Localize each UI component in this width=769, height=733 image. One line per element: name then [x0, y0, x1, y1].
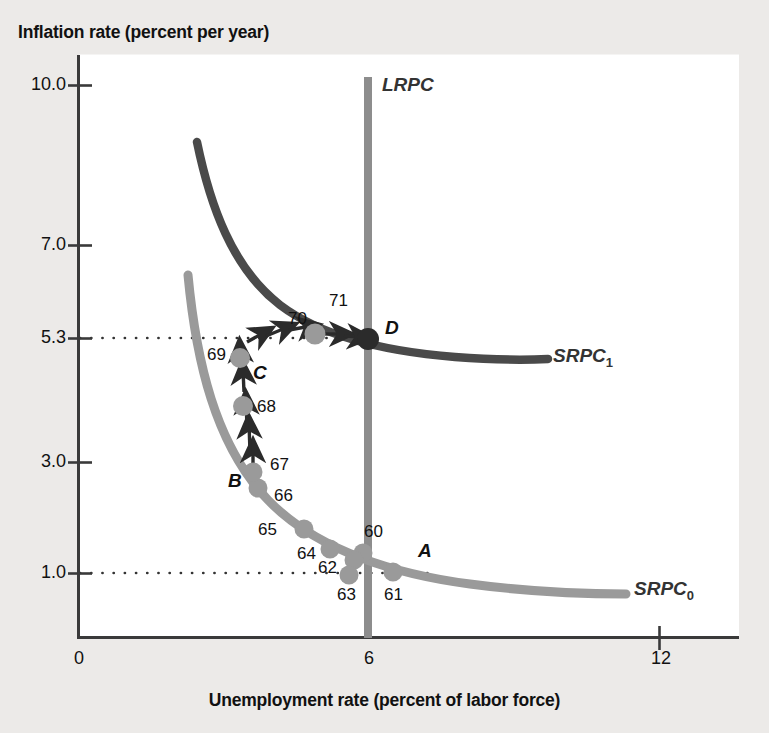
srpc0-curve — [188, 275, 626, 594]
data-point-65 — [295, 520, 314, 539]
srpc1-label: SRPC1 — [553, 345, 613, 370]
srpc1-label-sub: 1 — [606, 355, 613, 370]
year-label-63: 63 — [337, 585, 356, 605]
year-label-66: 66 — [274, 486, 293, 506]
srpc0-label: SRPC0 — [634, 578, 694, 603]
srpc0-label-text: SRPC — [634, 578, 687, 599]
data-point-63 — [340, 566, 359, 585]
chart-figure: Inflation rate (percent per year) Unempl… — [0, 0, 769, 733]
year-label-71: 71 — [329, 291, 348, 311]
lrpc-label: LRPC — [382, 74, 434, 96]
data-point-67 — [244, 463, 263, 482]
year-label-62: 62 — [318, 558, 337, 578]
year-label-68: 68 — [257, 397, 276, 417]
point-label-d: D — [385, 317, 399, 339]
data-point-64 — [321, 540, 340, 559]
year-label-60: 60 — [364, 522, 383, 542]
data-point-69 — [230, 348, 250, 368]
srpc1-label-text: SRPC — [553, 345, 606, 366]
chart-svg — [0, 0, 769, 733]
year-label-65: 65 — [258, 520, 277, 540]
data-point-70 — [305, 324, 326, 345]
data-point-61 — [384, 563, 403, 582]
year-label-70: 70 — [288, 309, 307, 329]
point-label-a: A — [418, 540, 432, 562]
year-label-61: 61 — [384, 585, 403, 605]
point-label-b: B — [228, 470, 242, 492]
year-label-67: 67 — [270, 455, 289, 475]
srpc1-curve — [197, 142, 548, 360]
point-label-c: C — [253, 362, 267, 384]
srpc0-label-sub: 0 — [687, 588, 694, 603]
data-point-71 — [357, 328, 379, 350]
data-point-68 — [233, 396, 253, 416]
year-label-64: 64 — [297, 544, 316, 564]
year-label-69: 69 — [207, 345, 226, 365]
